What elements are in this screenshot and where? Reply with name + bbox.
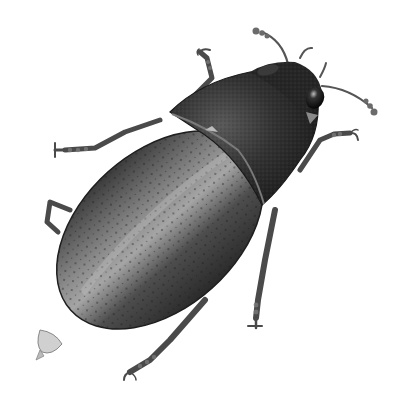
illustration-canvas: Grayscale scientific illustration of a b… bbox=[0, 0, 404, 404]
beetle-illustration bbox=[0, 0, 404, 404]
abdomen-tip bbox=[36, 330, 62, 360]
